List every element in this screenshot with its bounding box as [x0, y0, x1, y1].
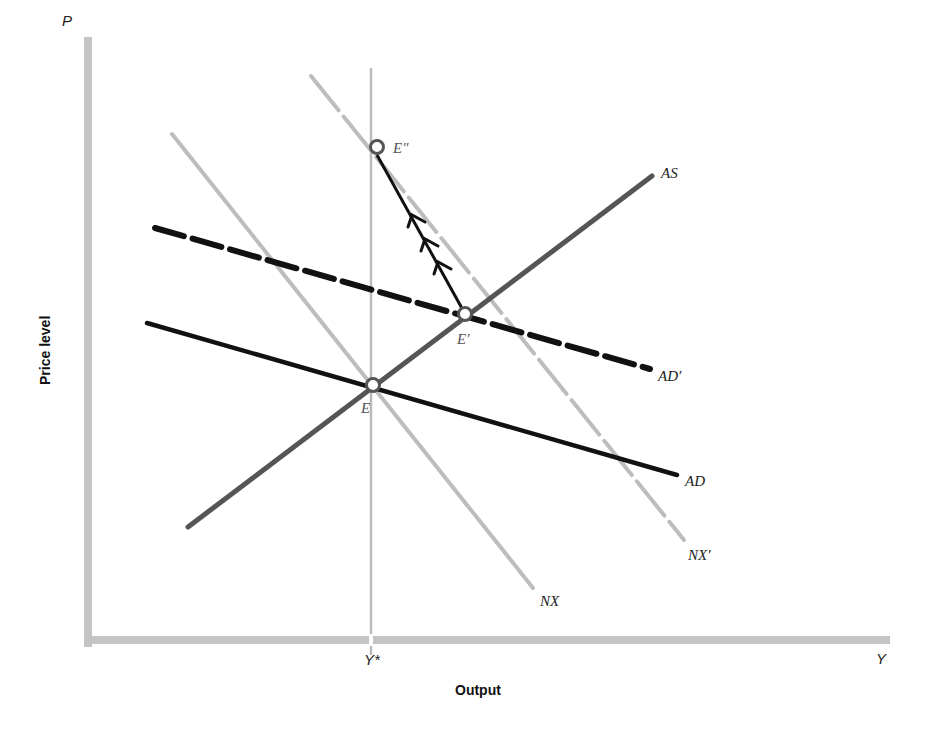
y-star-label: Y*	[364, 651, 381, 668]
point-e-double-prime	[371, 141, 384, 154]
x-axis-title: Output	[455, 682, 501, 698]
point-e-prime	[459, 308, 472, 321]
label-e: E	[360, 400, 370, 416]
adjustment-path	[377, 155, 464, 312]
x-axis	[84, 636, 890, 644]
diagram-canvas: P Y Y* Output Price level AS AD AD′ NX N…	[0, 0, 927, 735]
y-star-tick	[369, 634, 373, 646]
label-as: AS	[660, 165, 678, 181]
y-axis-letter: P	[62, 12, 72, 29]
label-nx: NX	[539, 593, 560, 609]
label-nx-prime: NX′	[687, 547, 711, 563]
nx-curve	[172, 134, 533, 588]
nx-prime-curve	[311, 76, 684, 540]
x-axis-letter: Y	[876, 650, 887, 667]
label-e-double-prime: E″	[392, 140, 409, 156]
label-ad-prime: AD′	[657, 368, 682, 384]
ad-curve	[147, 323, 677, 475]
y-axis-title: Price level	[37, 316, 53, 385]
label-ad: AD	[684, 473, 705, 489]
y-axis	[84, 37, 92, 647]
label-e-prime: E′	[456, 331, 470, 347]
point-e	[367, 379, 380, 392]
